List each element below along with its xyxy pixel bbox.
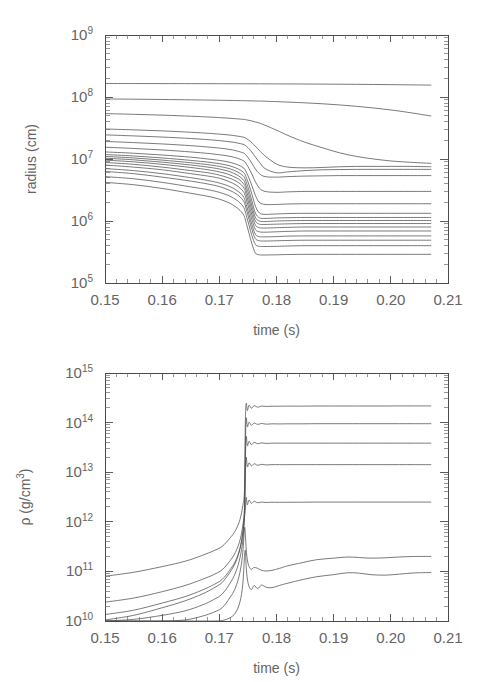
y-tick-labels: 101010111012101310141015: [65, 363, 93, 629]
density-panel: 0.150.160.170.180.190.200.21101010111012…: [0, 341, 480, 682]
x-tick-label: 0.18: [262, 629, 291, 646]
x-tick-label: 0.18: [262, 291, 291, 308]
axis-ticks: [105, 373, 448, 621]
y-axis-title: radius (cm): [23, 124, 39, 194]
x-tick-label: 0.17: [205, 291, 234, 308]
data-curve: [105, 129, 431, 168]
data-curve: [105, 497, 431, 621]
figure-canvas: 0.150.160.170.180.190.200.21105106107108…: [0, 0, 480, 682]
y-tick-label: 1015: [65, 363, 93, 381]
y-tick-labels: 105106107108109: [71, 25, 94, 291]
y-tick-label: 1013: [65, 462, 93, 480]
x-tick-label: 0.21: [433, 291, 462, 308]
data-curve: [105, 135, 431, 173]
y-axis-title: ρ (g/cm3): [15, 468, 33, 525]
y-tick-label: 1014: [65, 413, 93, 431]
x-tick-label: 0.17: [205, 629, 234, 646]
data-curve: [105, 527, 431, 621]
data-curve: [105, 158, 431, 221]
data-curve: [105, 457, 431, 620]
x-tick-label: 0.19: [319, 291, 348, 308]
data-curve: [105, 99, 431, 116]
y-tick-label: 108: [71, 87, 94, 105]
data-curve: [105, 418, 431, 602]
data-curve: [105, 165, 431, 232]
x-tick-label: 0.16: [148, 291, 177, 308]
curve-group: [105, 84, 431, 256]
x-tick-labels: 0.150.160.170.180.190.200.21: [90, 629, 462, 646]
y-tick-label: 109: [71, 25, 94, 43]
x-tick-label: 0.21: [433, 629, 462, 646]
density-plot-svg: 0.150.160.170.180.190.200.21101010111012…: [0, 341, 480, 682]
x-axis-title: time (s): [253, 322, 300, 338]
radius-plot-svg: 0.150.160.170.180.190.200.21105106107108…: [0, 0, 480, 341]
x-axis-title: time (s): [253, 660, 300, 676]
plot-frame: [105, 373, 448, 621]
radius-panel: 0.150.160.170.180.190.200.21105106107108…: [0, 0, 480, 341]
y-tick-label: 1010: [65, 611, 93, 629]
x-tick-label: 0.20: [376, 629, 405, 646]
y-tick-label: 1011: [66, 561, 94, 579]
x-tick-label: 0.15: [90, 291, 119, 308]
data-curve: [105, 114, 431, 164]
x-tick-label: 0.19: [319, 629, 348, 646]
y-tick-label: 1012: [65, 512, 93, 530]
curve-group: [105, 403, 431, 621]
x-tick-label: 0.20: [376, 291, 405, 308]
x-tick-labels: 0.150.160.170.180.190.200.21: [90, 291, 462, 308]
data-curve: [105, 403, 431, 576]
x-tick-label: 0.15: [90, 629, 119, 646]
data-curve: [105, 84, 431, 86]
x-tick-label: 0.16: [148, 629, 177, 646]
y-tick-label: 105: [71, 273, 94, 291]
y-tick-label: 107: [71, 149, 94, 167]
y-tick-label: 106: [71, 211, 94, 229]
